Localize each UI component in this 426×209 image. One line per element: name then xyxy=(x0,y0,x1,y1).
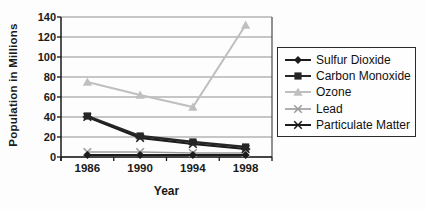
star-marker-icon xyxy=(293,121,302,129)
y-tick-label: 20 xyxy=(22,131,56,143)
y-tick-label: 100 xyxy=(22,51,56,63)
legend-item-lead: Lead xyxy=(278,101,415,117)
legend-label: Sulfur Dioxide xyxy=(316,53,391,67)
square-marker-icon xyxy=(284,70,312,82)
x-marker-icon xyxy=(284,103,312,115)
square-marker-icon xyxy=(294,73,301,80)
series-particulate-matter xyxy=(83,113,250,153)
triangle-marker-icon xyxy=(284,86,312,98)
x-tick-label: 1994 xyxy=(180,162,206,174)
square-marker-icon xyxy=(189,138,196,145)
x-axis-title: Year xyxy=(124,184,209,198)
legend-item-particulate-matter: Particulate Matter xyxy=(278,117,415,133)
star-marker-icon xyxy=(284,119,312,131)
square-marker-icon xyxy=(137,132,144,139)
legend-item-carbon-monoxide: Carbon Monoxide xyxy=(278,68,415,84)
y-tick-label: 0 xyxy=(22,151,56,163)
y-axis-title: Population in Millions xyxy=(7,15,19,155)
square-marker-icon xyxy=(84,112,91,119)
legend-item-sulfur-dioxide: Sulfur Dioxide xyxy=(278,52,415,68)
triangle-marker-icon xyxy=(83,77,92,85)
legend: Sulfur Dioxide Carbon Monoxide Ozone Lea… xyxy=(277,47,416,137)
y-tick-label: 120 xyxy=(22,31,56,43)
legend-item-ozone: Ozone xyxy=(278,84,415,100)
legend-label: Particulate Matter xyxy=(316,118,410,132)
series-line xyxy=(87,152,245,153)
x-tick-label: 1986 xyxy=(75,162,101,174)
series-line xyxy=(87,116,245,147)
y-tick-label: 60 xyxy=(22,91,56,103)
y-tick-label: 140 xyxy=(22,11,56,23)
square-marker-icon xyxy=(242,143,249,150)
legend-label: Lead xyxy=(316,102,343,116)
x-tick-label: 1998 xyxy=(233,162,259,174)
diamond-marker-icon xyxy=(284,54,312,66)
legend-label: Ozone xyxy=(316,85,351,99)
x-tick-label: 1990 xyxy=(127,162,153,174)
y-tick-label: 40 xyxy=(22,111,56,123)
y-tick-label: 80 xyxy=(22,71,56,83)
line-chart: Population in Millions Year 020406080100… xyxy=(0,0,426,209)
diamond-marker-icon xyxy=(294,56,302,64)
legend-label: Carbon Monoxide xyxy=(316,69,411,83)
series-carbon-monoxide xyxy=(84,112,249,150)
triangle-marker-icon xyxy=(241,20,250,28)
